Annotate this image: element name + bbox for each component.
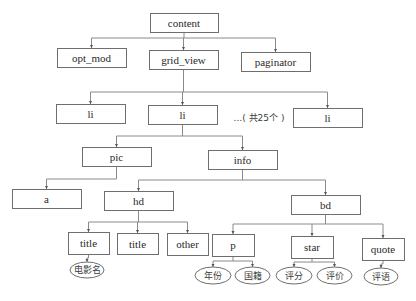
node-paginator: paginator xyxy=(242,53,311,72)
nodes: contentopt_modgrid_viewpaginatorlililipi… xyxy=(13,14,405,286)
arrowhead-icon xyxy=(324,192,327,195)
node-a: a xyxy=(13,190,82,209)
node-title2: title xyxy=(118,234,159,255)
arrowhead-icon xyxy=(137,188,140,191)
node-label: quote xyxy=(371,243,396,255)
node-label: 年份 xyxy=(204,270,222,281)
arrowhead-icon xyxy=(274,49,277,52)
node-grid_view: grid_view xyxy=(150,51,219,70)
node-title1: title xyxy=(69,233,110,255)
arrowhead-icon xyxy=(382,235,385,238)
arrowhead-icon xyxy=(45,186,48,189)
arrowhead-icon xyxy=(311,233,314,236)
node-quote: quote xyxy=(363,239,405,261)
node-country: 国籍 xyxy=(235,267,270,284)
node-label: p xyxy=(230,239,236,251)
node-label: li xyxy=(324,112,330,124)
arrowhead-icon xyxy=(182,47,185,50)
arrowhead-icon xyxy=(136,230,139,233)
node-li1: li xyxy=(57,105,126,124)
node-bd: bd xyxy=(292,196,361,215)
edge-group-title1 xyxy=(86,254,89,262)
edge-group-pic xyxy=(45,166,117,189)
node-label: hd xyxy=(133,195,145,207)
node-content: content xyxy=(151,14,219,33)
li-count-note: ...( 共25个 ) xyxy=(234,113,285,123)
node-label: li xyxy=(179,109,185,121)
node-label: 评价 xyxy=(326,271,344,281)
arrowhead-icon xyxy=(115,144,118,147)
node-label: a xyxy=(44,193,49,205)
node-label: grid_view xyxy=(161,54,206,66)
edge-group-hd xyxy=(87,210,189,233)
edge-group-quote xyxy=(380,260,384,268)
node-movie_name: 电影名 xyxy=(70,262,104,278)
edge-group-li2 xyxy=(115,124,244,150)
node-year: 年份 xyxy=(195,267,231,284)
node-li3: li xyxy=(294,109,363,128)
arrowhead-icon xyxy=(232,231,235,234)
node-label: li xyxy=(87,108,93,120)
dom-tree-diagram: contentopt_modgrid_viewpaginatorlililipi… xyxy=(0,0,416,301)
node-label: other xyxy=(176,238,199,250)
node-label: 电影名 xyxy=(74,264,101,275)
arrowhead-icon xyxy=(241,147,244,150)
node-star: star xyxy=(292,237,334,259)
node-li2: li xyxy=(149,106,218,125)
node-label: 评分 xyxy=(285,271,303,281)
edge-group-star xyxy=(293,258,337,267)
edge-group-p xyxy=(212,256,255,267)
node-label: 评语 xyxy=(372,272,390,282)
arrowhead-icon xyxy=(87,229,90,232)
node-other: other xyxy=(168,234,209,256)
arrowhead-icon xyxy=(89,101,92,104)
node-label: opt_mod xyxy=(72,52,112,64)
arrowhead-icon xyxy=(326,105,329,108)
edge-group-grid_view xyxy=(89,69,329,108)
node-label: bd xyxy=(320,199,332,211)
node-p: p xyxy=(213,235,255,257)
node-rating: 评分 xyxy=(276,267,312,284)
node-label: info xyxy=(234,154,252,166)
node-label: 国籍 xyxy=(244,270,262,281)
node-label: star xyxy=(304,241,320,253)
node-label: content xyxy=(168,17,200,29)
node-opt_mod: opt_mod xyxy=(58,49,127,68)
arrowhead-icon xyxy=(186,230,189,233)
node-info: info xyxy=(209,151,278,170)
node-hd: hd xyxy=(105,192,174,211)
node-pic: pic xyxy=(83,148,152,167)
arrowhead-icon xyxy=(181,102,184,105)
node-label: title xyxy=(129,238,146,250)
arrowhead-icon xyxy=(90,45,93,48)
node-review_count: 评价 xyxy=(317,267,352,284)
node-quote_text: 评语 xyxy=(364,268,398,285)
node-label: pic xyxy=(110,151,124,163)
node-label: title xyxy=(80,237,97,249)
node-label: paginator xyxy=(255,56,297,68)
